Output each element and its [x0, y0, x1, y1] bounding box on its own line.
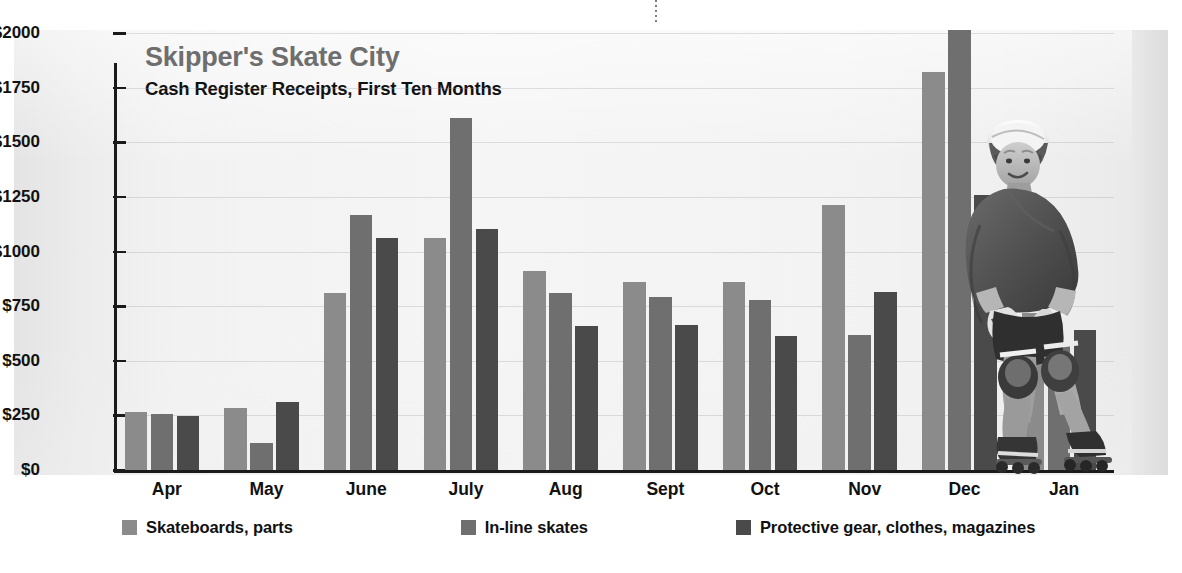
bar [224, 408, 247, 470]
x-axis-tick-label: Aug [549, 479, 583, 500]
legend-item[interactable]: Skateboards, parts [122, 518, 293, 537]
legend-item[interactable]: Protective gear, clothes, magazines [736, 518, 1035, 537]
bar [874, 292, 897, 470]
bar [1022, 313, 1045, 470]
bar [350, 215, 373, 470]
bar-group [815, 33, 915, 470]
bar-group [715, 33, 815, 470]
bar [250, 443, 273, 470]
bar-group [516, 33, 616, 470]
x-axis-tick-label: July [448, 479, 483, 500]
legend-label: In-line skates [485, 518, 588, 537]
bar [775, 336, 798, 470]
legend-label: Skateboards, parts [146, 518, 293, 537]
bar [376, 238, 399, 470]
chart-legend: Skateboards, partsIn-line skatesProtecti… [122, 518, 1035, 537]
bar [922, 72, 945, 470]
bar-group [616, 33, 716, 470]
legend-swatch [736, 520, 751, 535]
bar [476, 229, 499, 470]
x-axis-tick-label: Nov [848, 479, 881, 500]
y-axis-tick-label: $250 [2, 405, 40, 425]
y-axis-tick-label: $1750 [0, 78, 40, 98]
bar [675, 325, 698, 470]
bar [324, 293, 347, 470]
bar [822, 205, 845, 470]
y-axis-tick-label: $500 [2, 351, 40, 371]
bar [649, 297, 672, 470]
bar [575, 326, 598, 470]
bar [948, 30, 971, 470]
bar-group [217, 33, 317, 470]
legend-swatch [122, 520, 137, 535]
bar [125, 412, 148, 470]
legend-label: Protective gear, clothes, magazines [760, 518, 1035, 537]
y-axis-tick-label: $750 [2, 296, 40, 316]
bar [276, 402, 299, 470]
bar [523, 271, 546, 470]
y-axis-tick-label: $1500 [0, 132, 40, 152]
legend-item[interactable]: In-line skates [461, 518, 588, 537]
y-axis-tick-label: $2000 [0, 23, 40, 43]
bar [1048, 345, 1071, 470]
x-axis-tick-label: Jan [1049, 479, 1079, 500]
top-dotted-tick-marker [655, 0, 657, 22]
bar [848, 335, 871, 470]
plot-area: $2000$1750$1500$1250$1000$750$500$250$0 … [114, 33, 1114, 470]
x-axis-tick-label: Sept [646, 479, 684, 500]
bar [1074, 330, 1097, 470]
bar-group [117, 33, 217, 470]
bar-group [915, 33, 1015, 470]
bar [151, 414, 174, 470]
bar [549, 293, 572, 470]
panel-right-band [1132, 30, 1168, 475]
x-axis-tick-label: Dec [948, 479, 980, 500]
y-axis-tick-label: $1000 [0, 242, 40, 262]
x-axis-line [114, 470, 1114, 473]
bar-group [316, 33, 416, 470]
legend-swatch [461, 520, 476, 535]
bar [974, 195, 997, 470]
x-axis-tick-label: Oct [750, 479, 779, 500]
bar [623, 282, 646, 470]
bar-group [416, 33, 516, 470]
bar [177, 416, 200, 470]
x-axis-tick-label: June [346, 479, 387, 500]
bar-group [1014, 33, 1114, 470]
chart-page: Skipper's Skate City Cash Register Recei… [0, 0, 1182, 573]
bar [450, 118, 473, 470]
y-axis-tick-label: $0 [21, 460, 40, 480]
bar [749, 300, 772, 470]
x-axis-tick-label: May [250, 479, 284, 500]
x-axis-tick-label: Apr [152, 479, 182, 500]
bars-layer [117, 33, 1114, 470]
bar [424, 238, 447, 470]
bar [723, 282, 746, 470]
y-axis-tick-label: $1250 [0, 187, 40, 207]
